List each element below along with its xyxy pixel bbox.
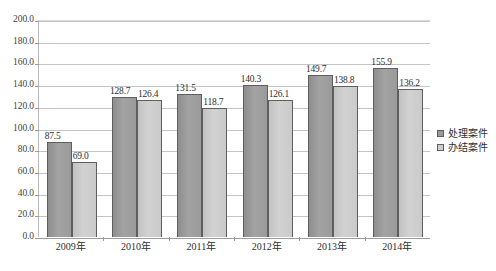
y-axis-tick-mark: [35, 238, 39, 239]
bar-series-0[interactable]: [47, 142, 72, 237]
bar-series-0[interactable]: [112, 97, 137, 237]
bar-value-label: 136.2: [399, 78, 419, 88]
y-axis-tick-mark: [35, 64, 39, 65]
plot-area: 87.569.0128.7126.4131.5118.7140.3126.114…: [38, 20, 430, 237]
x-axis-tick-mark: [103, 237, 104, 241]
legend-item-series-0[interactable]: 处理案件: [437, 128, 488, 139]
bar-chart: 200.0180.0160.0140.0120.0100.080.060.040…: [0, 0, 496, 271]
y-axis-tick-mark: [35, 43, 39, 44]
gridline: [39, 216, 430, 217]
y-axis-tick-label: 60.0: [0, 167, 34, 177]
y-axis-tick-label: 200.0: [0, 15, 34, 25]
bar-value-label: 149.7: [306, 64, 326, 74]
y-axis-tick-mark: [35, 195, 39, 196]
gridline: [39, 130, 430, 131]
legend-swatch-icon-series-0: [437, 130, 444, 137]
y-axis-tick-label: 140.0: [0, 80, 34, 90]
bar-value-label: 140.3: [241, 74, 261, 84]
legend-swatch-icon-series-1: [437, 144, 444, 151]
y-axis-tick-label: 20.0: [0, 210, 34, 220]
y-axis-tick-mark: [35, 86, 39, 87]
bar-group: 155.9136.2: [373, 21, 423, 237]
bar-group: 87.569.0: [47, 21, 97, 237]
bar-value-label: 118.7: [203, 97, 223, 107]
bar-series-1[interactable]: [137, 100, 162, 237]
x-axis-tick-label: 2013年: [299, 241, 364, 252]
x-axis-tick-label: 2009年: [38, 241, 103, 252]
bar-value-label: 126.4: [138, 89, 158, 99]
y-axis-tick-label: 180.0: [0, 37, 34, 47]
bar-value-label: 155.9: [371, 57, 391, 67]
x-axis-tick-label: 2012年: [234, 241, 299, 252]
y-axis-tick-mark: [35, 173, 39, 174]
bar-group: 149.7138.8: [308, 21, 358, 237]
bar-series-0[interactable]: [177, 94, 202, 237]
x-axis-tick-mark: [365, 237, 366, 241]
bar-group: 131.5118.7: [177, 21, 227, 237]
bar-series-0[interactable]: [308, 75, 333, 237]
bar-series-1[interactable]: [333, 86, 358, 237]
bar-value-label: 69.0: [73, 151, 89, 161]
y-axis-tick-mark: [35, 151, 39, 152]
gridline: [39, 21, 430, 22]
bar-series-0[interactable]: [373, 68, 398, 237]
gridline: [39, 173, 430, 174]
legend-label-series-0: 处理案件: [448, 128, 488, 139]
bar-value-label: 131.5: [175, 83, 195, 93]
bar-value-label: 128.7: [110, 86, 130, 96]
y-axis-tick-label: 0.0: [0, 232, 34, 242]
y-axis-tick-label: 120.0: [0, 102, 34, 112]
chart-legend: 处理案件 办结案件: [437, 128, 488, 153]
y-axis-tick-mark: [35, 21, 39, 22]
x-axis-tick-label: 2011年: [169, 241, 234, 252]
bar-series-1[interactable]: [398, 89, 423, 237]
x-axis-tick-mark: [234, 237, 235, 241]
x-axis-tick-mark: [299, 237, 300, 241]
x-axis-tick-label: 2010年: [103, 241, 168, 252]
bar-group: 140.3126.1: [243, 21, 293, 237]
gridline: [39, 195, 430, 196]
x-axis-tick-label: 2014年: [365, 241, 430, 252]
bar-value-label: 87.5: [45, 131, 61, 141]
bar-series-1[interactable]: [202, 108, 227, 237]
bar-group: 128.7126.4: [112, 21, 162, 237]
y-axis-tick-mark: [35, 130, 39, 131]
bar-value-label: 138.8: [334, 75, 354, 85]
y-axis-tick-label: 100.0: [0, 124, 34, 134]
bar-series-1[interactable]: [268, 100, 293, 237]
y-axis-tick-mark: [35, 108, 39, 109]
bar-series-1[interactable]: [72, 162, 97, 237]
gridline: [39, 86, 430, 87]
y-axis-tick-mark: [35, 216, 39, 217]
y-axis-tick-label: 80.0: [0, 145, 34, 155]
bar-value-label: 126.1: [269, 89, 289, 99]
legend-label-series-1: 办结案件: [448, 142, 488, 153]
y-axis-tick-label: 40.0: [0, 189, 34, 199]
gridline: [39, 43, 430, 44]
y-axis-tick-label: 160.0: [0, 58, 34, 68]
gridline: [39, 108, 430, 109]
bar-series-0[interactable]: [243, 85, 268, 237]
gridline: [39, 151, 430, 152]
legend-item-series-1[interactable]: 办结案件: [437, 142, 488, 153]
x-axis-tick-mark: [169, 237, 170, 241]
